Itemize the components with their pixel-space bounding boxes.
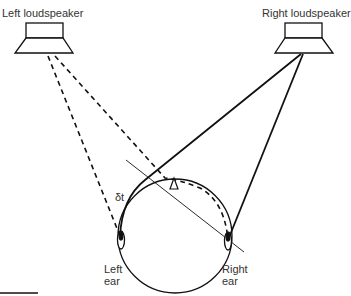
right-ear-icon	[225, 232, 232, 250]
left-ear-label-line2: ear	[104, 275, 122, 287]
left-loudspeaker-label: Left loudspeaker	[2, 7, 83, 19]
right-ear-label-line2: ear	[222, 275, 248, 287]
right-speaker-sound-paths	[120, 54, 303, 240]
right-ear-label-line1: Right	[222, 263, 248, 275]
left-ear-icon	[118, 231, 125, 249]
head-icon	[118, 179, 232, 293]
left-loudspeaker-icon	[15, 23, 73, 53]
right-ear-label: Right ear	[222, 263, 248, 287]
stereo-diagram	[0, 0, 351, 296]
right-loudspeaker-label: Right loudspeaker	[262, 7, 351, 19]
delta-t-label: δt	[115, 191, 124, 203]
right-loudspeaker-icon	[275, 23, 333, 53]
left-speaker-sound-paths	[48, 56, 227, 236]
left-ear-label-line1: Left	[104, 263, 122, 275]
left-ear-label: Left ear	[104, 263, 122, 287]
